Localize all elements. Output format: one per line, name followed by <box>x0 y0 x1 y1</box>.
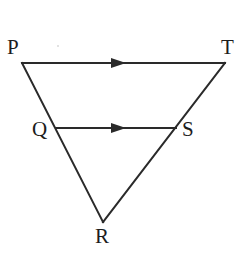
arrow-on-PT-icon <box>111 58 126 68</box>
scan-artifact-speck <box>57 45 59 47</box>
geometry-figure: P T Q S R <box>0 0 249 259</box>
vertex-label-S: S <box>182 119 194 140</box>
arrow-on-QS-icon <box>111 123 126 133</box>
segment-PR <box>22 63 103 222</box>
segment-TR <box>103 63 225 222</box>
vertex-label-T: T <box>221 37 234 58</box>
vertex-label-R: R <box>95 226 109 247</box>
vertex-label-P: P <box>7 37 19 58</box>
vertex-label-Q: Q <box>32 119 47 140</box>
